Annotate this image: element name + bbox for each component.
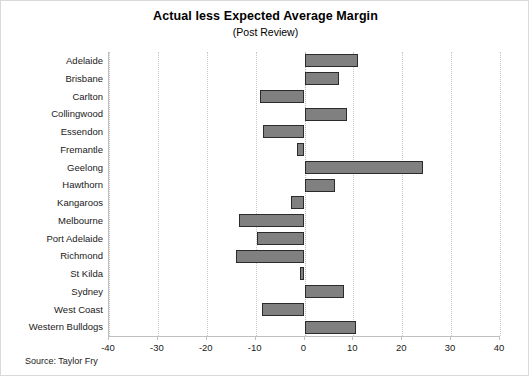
bar[interactable] [305,108,347,121]
y-axis-label-brisbane: Brisbane [1,70,103,88]
x-tick-label-30: 30 [430,342,470,353]
bar-row [109,159,500,177]
x-tick-30 [450,336,451,340]
bar-row [109,70,500,88]
bar-row [109,88,500,106]
y-axis-label-sydney: Sydney [1,283,103,301]
y-axis-label-st-kilda: St Kilda [1,265,103,283]
bar[interactable] [305,161,424,174]
y-axis-label-hawthorn: Hawthorn [1,176,103,194]
bar-row [109,265,500,283]
y-axis-label-kangaroos: Kangaroos [1,194,103,212]
bar[interactable] [305,321,356,334]
bar[interactable] [291,196,304,209]
bar-row [109,52,500,70]
y-axis-label-adelaide: Adelaide [1,52,103,70]
y-axis-label-port-adelaide: Port Adelaide [1,230,103,248]
bar-row [109,230,500,248]
plot-area [108,52,499,336]
bar-row [109,176,500,194]
bar[interactable] [297,143,304,156]
x-tick-20 [401,336,402,340]
y-axis-label-essendon: Essendon [1,123,103,141]
x-tick-0 [304,336,305,340]
bar-row [109,212,500,230]
bar-row [109,194,500,212]
x-tick-label-0: 0 [284,342,324,353]
bar[interactable] [263,125,304,138]
bar-row [109,283,500,301]
bar[interactable] [305,54,359,67]
chart-figure: Actual less Expected Average Margin (Pos… [0,0,529,376]
bar-row [109,105,500,123]
y-axis-label-western-bulldogs: Western Bulldogs [1,318,103,336]
bar-row [109,318,500,336]
bar-row [109,301,500,319]
y-axis-label-fremantle: Fremantle [1,141,103,159]
bar[interactable] [257,232,305,245]
bar[interactable] [305,72,339,85]
bar[interactable] [305,285,344,298]
bar-row [109,123,500,141]
x-tick--40 [108,336,109,340]
gridline-40 [500,52,501,336]
x-tick-label--40: -40 [88,342,128,353]
bar[interactable] [236,250,304,263]
x-tick-label--10: -10 [235,342,275,353]
y-axis-label-melbourne: Melbourne [1,212,103,230]
bar[interactable] [239,214,304,227]
chart-title: Actual less Expected Average Margin [1,9,529,24]
title-block: Actual less Expected Average Margin (Pos… [1,9,529,39]
x-tick--20 [206,336,207,340]
bar[interactable] [300,267,305,280]
bar[interactable] [260,90,305,103]
chart-subtitle: (Post Review) [1,25,529,39]
x-tick--30 [157,336,158,340]
bar-row [109,141,500,159]
x-tick-label-10: 10 [332,342,372,353]
bar[interactable] [305,179,336,192]
y-axis-label-collingwood: Collingwood [1,105,103,123]
x-tick-10 [352,336,353,340]
source-note: Source: Taylor Fry [25,356,98,366]
x-tick--10 [255,336,256,340]
y-axis-label-west-coast: West Coast [1,301,103,319]
y-axis-label-geelong: Geelong [1,159,103,177]
x-tick-label--20: -20 [186,342,226,353]
y-axis-label-carlton: Carlton [1,88,103,106]
x-tick-label--30: -30 [137,342,177,353]
x-tick-label-40: 40 [479,342,519,353]
bar-row [109,247,500,265]
x-tick-label-20: 20 [381,342,421,353]
bar[interactable] [262,303,304,316]
x-tick-40 [499,336,500,340]
y-axis-category-labels: AdelaideBrisbaneCarltonCollingwoodEssend… [1,52,103,336]
y-axis-label-richmond: Richmond [1,247,103,265]
